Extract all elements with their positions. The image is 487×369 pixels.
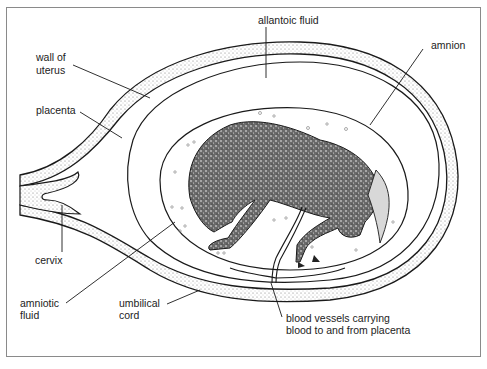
label-wall-of-uterus-2: uterus [36, 64, 65, 76]
label-amnion: amnion [431, 39, 465, 51]
label-blood-vessels-2: blood to and from placenta [286, 324, 410, 336]
label-allantoic-fluid: allantoic fluid [258, 14, 319, 26]
label-placenta: placenta [36, 104, 76, 116]
uterus-diagram [0, 0, 487, 369]
label-cervix: cervix [35, 254, 62, 266]
label-wall-of-uterus-1: wall of [36, 51, 66, 63]
label-blood-vessels-1: blood vessels carrying [286, 312, 390, 324]
label-amniotic-fluid-2: fluid [20, 309, 39, 321]
label-umbilical-cord-2: cord [119, 309, 139, 321]
label-amniotic-fluid-1: amniotic [20, 297, 59, 309]
label-umbilical-cord-1: umbilical [119, 297, 160, 309]
